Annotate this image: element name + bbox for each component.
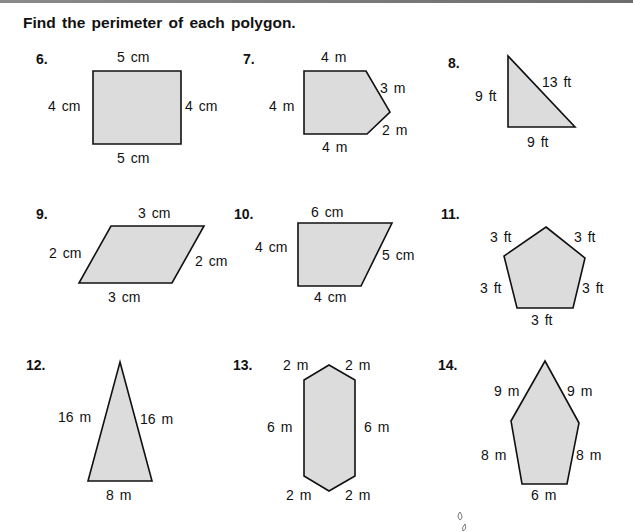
rectangle-shape [93,71,181,144]
parallelogram-shape [79,226,204,283]
side-label-right: 5 cm [382,247,414,263]
problem-number: 14. [438,357,457,373]
trapezoid-shape [298,223,392,286]
side-label-upper-right: 3 m [380,80,405,96]
side-label-bottom: 9 ft [527,134,549,150]
stray-pencil-mark [458,512,466,531]
problem-7: 7. 4 m 4 m 3 m 2 m 4 m [243,49,407,155]
side-label-lower-left: 3 ft [480,280,502,296]
pentagon-shape [511,361,579,484]
regular-pentagon-shape [504,227,585,308]
problem-number: 8. [448,55,460,71]
side-label-bottom-right: 2 m [345,487,370,503]
side-label-left: 16 m [58,409,91,425]
problem-8: 8. 13 ft 9 ft 9 ft [448,55,575,150]
side-label-left: 2 cm [49,245,81,261]
side-label-bottom: 4 cm [314,289,346,305]
side-label-bottom: 3 ft [531,312,553,328]
side-label-lower-right: 8 m [576,447,601,463]
side-label-left: 4 cm [255,239,287,255]
side-label-upper-right: 3 ft [574,229,596,245]
problem-number: 11. [441,206,460,222]
side-label-left: 4 m [269,98,294,114]
problem-13: 13. 2 m 2 m 6 m 6 m 2 m 2 m [233,357,389,503]
side-label-lower-left: 8 m [481,447,506,463]
side-label-top-right: 2 m [345,357,370,373]
side-label-left: 9 ft [475,88,497,104]
side-label-lower-right: 2 m [382,122,407,138]
right-triangle-shape [508,56,575,127]
side-label-left: 4 cm [48,98,80,114]
side-label-upper-left: 9 m [494,383,519,399]
problem-number: 12. [26,357,45,373]
side-label-upper-right: 9 m [567,383,592,399]
side-label-bottom: 3 cm [108,289,140,305]
side-label-bottom: 5 cm [117,150,149,166]
hexagon-shape [304,365,355,491]
side-label-right: 6 m [364,419,389,435]
side-label-upper-left: 3 ft [490,229,512,245]
side-label-left: 6 m [267,419,292,435]
side-label-right: 2 cm [195,253,227,269]
side-label-hypotenuse: 13 ft [542,74,571,90]
problem-number: 10. [234,206,253,222]
side-label-bottom: 8 m [106,487,131,503]
problem-10: 10. 6 cm 4 cm 5 cm 4 cm [234,204,414,305]
problem-11: 11. 3 ft 3 ft 3 ft 3 ft 3 ft [441,206,604,328]
side-label-lower-right: 3 ft [582,280,604,296]
side-label-bottom: 4 m [322,139,347,155]
side-label-right: 16 m [140,411,173,427]
problem-9: 9. 3 cm 2 cm 2 cm 3 cm [36,205,227,305]
side-label-right: 4 cm [185,98,217,114]
side-label-top-left: 2 m [283,357,308,373]
problem-6: 6. 5 cm 4 cm 4 cm 5 cm [36,49,217,166]
side-label-top: 3 cm [138,205,170,221]
pentagon-shape [304,71,390,134]
side-label-bottom-left: 2 m [286,487,311,503]
problems-figure: 6. 5 cm 4 cm 4 cm 5 cm 7. 4 m 4 m 3 m 2 … [0,0,633,532]
side-label-top: 6 cm [311,204,343,220]
side-label-top: 5 cm [117,49,149,65]
problem-number: 7. [243,51,255,67]
problem-number: 13. [233,357,252,373]
problem-14: 14. 9 m 9 m 8 m 8 m 6 m [438,357,601,503]
problem-12: 12. 16 m 16 m 8 m [26,357,173,503]
side-label-top: 4 m [321,49,346,65]
problem-number: 9. [36,206,48,222]
problem-number: 6. [36,51,48,67]
side-label-bottom: 6 m [531,487,556,503]
